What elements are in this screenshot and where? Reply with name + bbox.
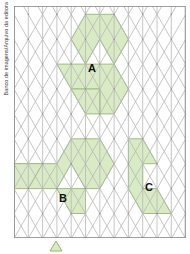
triangular-grid: A B C xyxy=(14,6,186,238)
image-credit: Banco de imagens/Arquivo da editora xyxy=(0,0,13,254)
unit-triangle-marker-svg xyxy=(49,240,63,252)
triangular-grid-panel: A B C xyxy=(14,6,186,238)
shape-b-label: B xyxy=(59,192,67,204)
unit-triangle-shape xyxy=(50,241,62,251)
unit-triangle-marker xyxy=(49,240,63,252)
shape-c-label: C xyxy=(145,181,153,193)
image-credit-text: Banco de imagens/Arquivo da editora xyxy=(4,2,9,95)
figure-root: Banco de imagens/Arquivo da editora xyxy=(0,0,190,254)
shape-a-label: A xyxy=(88,62,96,74)
